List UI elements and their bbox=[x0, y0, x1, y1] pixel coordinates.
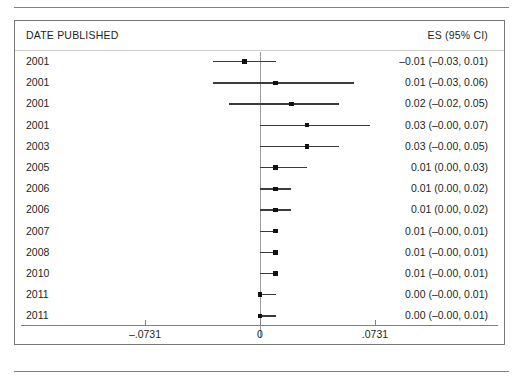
row-date-published: 2011 bbox=[26, 309, 49, 321]
effect-size-marker bbox=[273, 165, 278, 170]
forest-plot-row: 20050.01 (0.00, 0.03) bbox=[15, 157, 504, 178]
row-effect-size-value: 0.01 (0.00, 0.02) bbox=[411, 182, 488, 194]
forest-plot-row: 20030.03 (–0.00, 0.05) bbox=[15, 136, 504, 157]
forest-plot-row: 20010.02 (–0.02, 0.05) bbox=[15, 93, 504, 114]
header-date-published: DATE PUBLISHED bbox=[26, 29, 118, 41]
forest-plot-row: 20100.01 (–0.00, 0.01) bbox=[15, 263, 504, 284]
forest-plot-row: 20060.01 (0.00, 0.02) bbox=[15, 199, 504, 220]
confidence-interval-line bbox=[260, 294, 276, 295]
effect-size-marker bbox=[273, 271, 278, 276]
forest-plot-figure: DATE PUBLISHED ES (95% CI) 2001–0.01 (–0… bbox=[0, 0, 521, 382]
confidence-interval-line bbox=[260, 167, 307, 168]
confidence-interval-line bbox=[260, 146, 339, 147]
row-date-published: 2006 bbox=[26, 203, 49, 215]
row-effect-size-value: 0.01 (–0.00, 0.01) bbox=[405, 246, 488, 258]
effect-size-marker bbox=[273, 229, 278, 234]
confidence-interval-line bbox=[260, 125, 370, 126]
confidence-interval-line bbox=[213, 82, 355, 83]
row-effect-size-value: 0.01 (–0.00, 0.01) bbox=[405, 267, 488, 279]
forest-plot-rows: 2001–0.01 (–0.03, 0.01)20010.01 (–0.03, … bbox=[15, 51, 504, 326]
row-date-published: 2010 bbox=[26, 267, 49, 279]
x-axis-tick-mark bbox=[375, 320, 376, 325]
confidence-interval-line bbox=[229, 103, 339, 104]
forest-plot-frame: DATE PUBLISHED ES (95% CI) 2001–0.01 (–0… bbox=[14, 20, 505, 345]
effect-size-marker bbox=[273, 81, 278, 86]
forest-plot-row: 20110.00 (–0.00, 0.01) bbox=[15, 284, 504, 305]
row-date-published: 2005 bbox=[26, 161, 49, 173]
row-effect-size-value: –0.01 (–0.03, 0.01) bbox=[399, 55, 488, 67]
header-effect-size: ES (95% CI) bbox=[427, 29, 488, 41]
row-date-published: 2001 bbox=[26, 55, 49, 67]
effect-size-marker bbox=[273, 187, 278, 192]
row-effect-size-value: 0.03 (–0.00, 0.05) bbox=[405, 140, 488, 152]
row-date-published: 2007 bbox=[26, 225, 49, 237]
effect-size-marker bbox=[273, 208, 278, 213]
row-date-published: 2011 bbox=[26, 288, 49, 300]
x-axis-tick-label: .0731 bbox=[362, 328, 388, 340]
row-effect-size-value: 0.03 (–0.00, 0.07) bbox=[405, 119, 488, 131]
effect-size-marker bbox=[258, 292, 263, 297]
confidence-interval-line bbox=[260, 315, 276, 316]
row-effect-size-value: 0.00 (–0.00, 0.01) bbox=[405, 288, 488, 300]
row-effect-size-value: 0.01 (0.00, 0.02) bbox=[411, 203, 488, 215]
row-effect-size-value: 0.01 (0.00, 0.03) bbox=[411, 161, 488, 173]
effect-size-marker bbox=[258, 314, 263, 319]
row-date-published: 2006 bbox=[26, 182, 49, 194]
x-axis-tick-mark bbox=[145, 320, 146, 325]
effect-size-marker bbox=[289, 102, 294, 107]
row-date-published: 2008 bbox=[26, 246, 49, 258]
x-axis-line bbox=[21, 325, 498, 326]
row-effect-size-value: 0.01 (–0.03, 0.06) bbox=[405, 76, 488, 88]
effect-size-marker bbox=[305, 144, 310, 149]
column-header-row: DATE PUBLISHED ES (95% CI) bbox=[15, 21, 504, 51]
effect-size-marker bbox=[305, 123, 310, 128]
row-date-published: 2001 bbox=[26, 97, 49, 109]
top-divider-rule bbox=[14, 7, 509, 8]
x-axis-tick-mark bbox=[260, 320, 261, 325]
row-effect-size-value: 0.00 (–0.00, 0.01) bbox=[405, 309, 488, 321]
bottom-divider-rule bbox=[14, 371, 509, 372]
forest-plot-row: 20010.01 (–0.03, 0.06) bbox=[15, 72, 504, 93]
forest-plot-row: 2001–0.01 (–0.03, 0.01) bbox=[15, 51, 504, 72]
effect-size-marker bbox=[273, 250, 278, 255]
row-date-published: 2003 bbox=[26, 140, 49, 152]
effect-size-marker bbox=[242, 59, 247, 64]
forest-plot-row: 20060.01 (0.00, 0.02) bbox=[15, 178, 504, 199]
row-effect-size-value: 0.02 (–0.02, 0.05) bbox=[405, 97, 488, 109]
row-date-published: 2001 bbox=[26, 76, 49, 88]
row-date-published: 2001 bbox=[26, 119, 49, 131]
row-effect-size-value: 0.01 (–0.00, 0.01) bbox=[405, 225, 488, 237]
forest-plot-row: 20010.03 (–0.00, 0.07) bbox=[15, 115, 504, 136]
forest-plot-row: 20070.01 (–0.00, 0.01) bbox=[15, 221, 504, 242]
x-axis-tick-label: 0 bbox=[257, 328, 263, 340]
x-axis-tick-label: –.0731 bbox=[129, 328, 161, 340]
forest-plot-row: 20080.01 (–0.00, 0.01) bbox=[15, 242, 504, 263]
